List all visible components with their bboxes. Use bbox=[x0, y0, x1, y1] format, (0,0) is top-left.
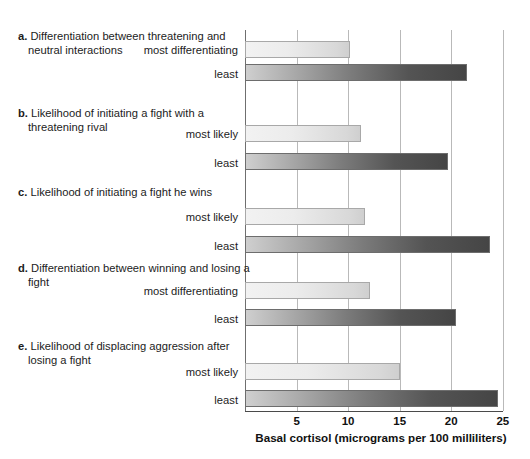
gridline-15 bbox=[400, 30, 401, 411]
group-e-line1: Likelihood of displacing aggression bbox=[30, 340, 204, 352]
group-d-label-most: most differentiating bbox=[16, 285, 238, 297]
figure-container: a. Differentiation between threatening a… bbox=[0, 0, 530, 459]
x-tick-15: 15 bbox=[380, 415, 420, 427]
group-e-label-least: least bbox=[16, 394, 238, 406]
x-tick-20: 20 bbox=[431, 415, 471, 427]
bar-d-most bbox=[245, 282, 370, 299]
group-e-label-most: most likely bbox=[16, 366, 238, 378]
bar-d-least bbox=[245, 309, 456, 326]
group-c-label-most: most likely bbox=[16, 211, 238, 223]
x-tick-5: 5 bbox=[277, 415, 317, 427]
gridline-20 bbox=[451, 30, 452, 411]
group-b-line1: Likelihood of initiating a fight with a bbox=[31, 107, 204, 119]
group-b-letter: b. bbox=[18, 107, 28, 119]
group-e-letter: e. bbox=[18, 340, 27, 352]
x-axis-line bbox=[245, 411, 503, 412]
group-a-label-least: least bbox=[16, 68, 238, 80]
group-d-line1: Differentiation between winning and bbox=[31, 262, 208, 274]
group-b-label-most: most likely bbox=[16, 128, 238, 140]
group-d-letter: d. bbox=[18, 262, 28, 274]
bar-e-most bbox=[245, 363, 400, 380]
group-b-label-least: least bbox=[16, 157, 238, 169]
bar-c-most bbox=[245, 208, 365, 225]
x-tick-10: 10 bbox=[328, 415, 368, 427]
bar-a-most bbox=[245, 41, 350, 58]
group-a-label-most: most differentiating bbox=[16, 44, 238, 56]
bar-c-least bbox=[245, 236, 490, 253]
group-c-letter: c. bbox=[18, 186, 27, 198]
bar-b-most bbox=[245, 125, 361, 142]
x-axis-title: Basal cortisol (micrograms per 100 milli… bbox=[245, 431, 517, 444]
group-a-letter: a. bbox=[18, 30, 27, 42]
x-tick-25: 25 bbox=[483, 415, 523, 427]
group-c-title: c. Likelihood of initiating a fight he w… bbox=[18, 186, 256, 200]
bar-b-least bbox=[245, 153, 448, 170]
group-a-line1: Differentiation between threatening bbox=[30, 30, 203, 42]
figure-caption bbox=[16, 450, 516, 459]
group-d-label-least: least bbox=[16, 313, 238, 325]
group-c-label-least: least bbox=[16, 240, 238, 252]
group-e-title: e. Likelihood of displacing aggression a… bbox=[18, 340, 256, 367]
group-c-line1: Likelihood of initiating a fight he wins bbox=[30, 186, 212, 198]
gridline-25 bbox=[503, 30, 504, 411]
bar-a-least bbox=[245, 64, 467, 81]
bar-e-least bbox=[245, 390, 498, 407]
